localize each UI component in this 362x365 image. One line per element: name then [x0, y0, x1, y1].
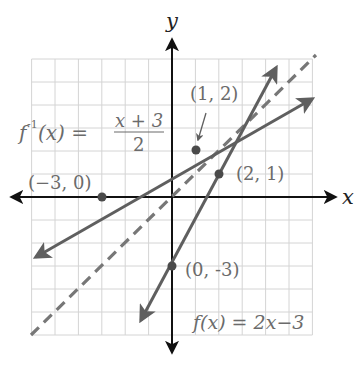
- svg-text:(x) =: (x) =: [38, 121, 88, 145]
- point-1-2: [192, 146, 201, 155]
- function-line: [141, 68, 276, 320]
- point-1-2-pointer: [198, 113, 206, 140]
- point-0-neg3: [168, 262, 177, 271]
- y-axis-label: y: [165, 9, 179, 33]
- function-equation: f(x) = 2x−3: [191, 311, 304, 333]
- svg-text:x + 3: x + 3: [115, 110, 163, 131]
- point-2-1: [215, 170, 224, 179]
- inverse-function-equation: f -1 (x) = x + 3 2: [17, 110, 164, 155]
- identity-line-dashed: [31, 55, 316, 335]
- label-point-neg3-0: (−3, 0): [28, 172, 91, 193]
- svg-text:2: 2: [133, 134, 144, 155]
- function-inverse-graph: x y (−3, 0) (1, 2) (2, 1) (0, -3) f -1 (…: [0, 0, 362, 365]
- svg-text:-1: -1: [27, 118, 38, 131]
- label-point-1-2: (1, 2): [190, 83, 238, 104]
- point-neg3-0: [98, 193, 107, 202]
- label-point-2-1: (2, 1): [236, 163, 284, 184]
- x-axis-label: x: [342, 185, 354, 209]
- label-point-0-neg3: (0, -3): [185, 259, 239, 280]
